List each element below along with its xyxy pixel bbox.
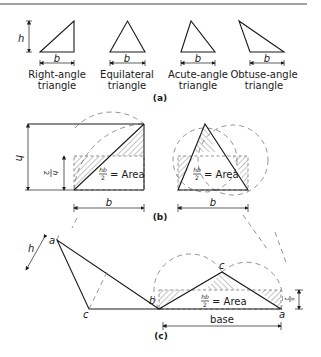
triangle-word: triangle xyxy=(245,80,284,91)
base-label: base xyxy=(210,314,234,325)
right-angle-triangle: h b Right-angle triangle xyxy=(18,21,86,91)
triangle-area-diagram: h b Right-angle triangle b Equilateral t… xyxy=(0,0,321,357)
svg-text:= Area: = Area xyxy=(110,169,145,180)
base-label: b xyxy=(106,197,112,208)
triangle-on-base: hb 2 = Area c a h 2 base xyxy=(154,232,303,330)
triangle-name: Right-angle xyxy=(28,69,86,80)
triangle-name: Equilateral xyxy=(100,69,154,80)
triangle-word: triangle xyxy=(38,80,77,91)
base-label: b xyxy=(195,53,201,64)
area-formula: hb 2 = Area xyxy=(201,293,247,308)
height-label: h xyxy=(18,33,24,44)
svg-text:h: h xyxy=(51,171,59,175)
half-height-label: h 2 xyxy=(42,169,59,177)
section-c: h a c b hb 2 = Area c a xyxy=(26,232,303,341)
section-b: h h 2 hb 2 = Area b xyxy=(14,112,268,250)
section-a: h b Right-angle triangle b Equilateral t… xyxy=(18,21,298,103)
triangle-name: Acute-angle xyxy=(168,69,228,80)
area-formula: hb 2 = Area xyxy=(99,166,145,181)
base-label: b xyxy=(54,53,60,64)
vertex-a: a xyxy=(49,235,55,246)
svg-text:2: 2 xyxy=(195,174,199,181)
vertex-c: c xyxy=(83,309,89,320)
caption-c: (c) xyxy=(154,331,168,341)
triangle-word: triangle xyxy=(179,80,218,91)
obtuse-triangle-rotated: h a c b xyxy=(26,232,159,320)
svg-text:2: 2 xyxy=(203,301,207,308)
base-label: b xyxy=(210,197,216,208)
svg-text:= Area: = Area xyxy=(212,296,247,307)
triangle-word: triangle xyxy=(108,80,147,91)
obtuse-angle-triangle: b Obtuse-angle triangle xyxy=(230,21,297,91)
svg-text:= Area: = Area xyxy=(204,169,239,180)
triangle-name: Obtuse-angle xyxy=(230,69,297,80)
height-label: h xyxy=(28,243,34,254)
vertex-c-right: c xyxy=(219,260,225,271)
caption-b: (b) xyxy=(153,212,168,222)
svg-text:2: 2 xyxy=(101,174,105,181)
acute-angle-triangle: b Acute-angle triangle xyxy=(168,21,228,91)
half-h-label: h 2 xyxy=(284,296,296,302)
equilateral-triangle: b Equilateral triangle xyxy=(100,21,154,91)
base-label: b xyxy=(124,53,130,64)
svg-text:2: 2 xyxy=(42,171,50,175)
svg-text:2: 2 xyxy=(284,297,290,300)
svg-text:hb: hb xyxy=(99,166,107,173)
triangle-circles: hb 2 = Area b xyxy=(173,124,268,250)
vertex-a-right: a xyxy=(279,309,285,320)
caption-a: (a) xyxy=(153,93,167,103)
svg-text:hb: hb xyxy=(193,166,201,173)
right-triangle-rectangle: h h 2 hb 2 = Area b xyxy=(14,112,145,228)
svg-text:hb: hb xyxy=(201,293,209,300)
base-label: b xyxy=(264,53,270,64)
area-formula: hb 2 = Area xyxy=(193,166,239,181)
height-label: h xyxy=(14,155,25,161)
